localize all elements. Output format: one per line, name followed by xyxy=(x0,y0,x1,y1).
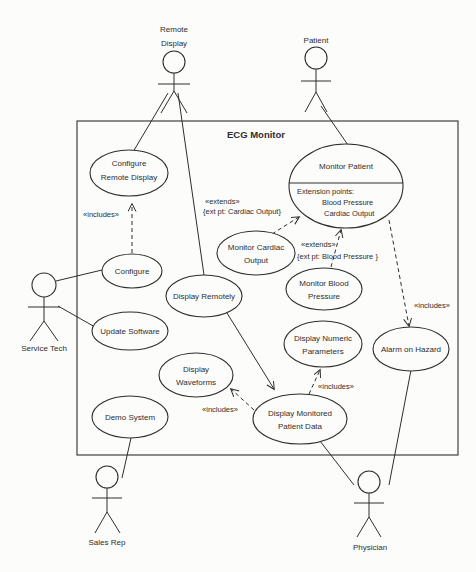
use-case-ellipse xyxy=(253,394,347,444)
extension-points-header: Extension points: xyxy=(297,187,354,196)
actor-leg-right xyxy=(44,321,58,341)
use-case-label: Output xyxy=(244,256,269,265)
use-case-diagram-page: ECG Monitor «includes» «extends» {ext pt… xyxy=(0,0,476,572)
association-displayremotely-displaymonitored xyxy=(227,313,274,389)
stereotype-extends-bp: «extends» xyxy=(301,240,336,249)
use-case-label: Display xyxy=(183,365,209,374)
use-case-display-numeric-parameters: Display Numeric Parameters xyxy=(284,321,362,367)
use-case-label: Display Numeric xyxy=(294,334,352,343)
actor-label: Display xyxy=(161,39,187,48)
use-case-monitor-cardiac-output: Monitor Cardiac Output xyxy=(217,231,295,275)
use-case-label: Display Remotely xyxy=(173,292,235,301)
actor-leg-left xyxy=(30,321,44,341)
system-title: ECG Monitor xyxy=(227,129,285,140)
actor-leg-left xyxy=(305,92,316,112)
use-case-label: Monitor Patient xyxy=(319,162,374,171)
actor-label: Service Tech xyxy=(21,344,67,353)
association-remotedisplay-configureremotedisplay xyxy=(133,93,168,152)
extension-point-item: Cardiac Output xyxy=(324,209,375,218)
actor-patient: Patient xyxy=(301,36,331,112)
use-case-label: Patient Data xyxy=(278,422,323,431)
actor-head xyxy=(32,273,56,297)
actor-leg-left xyxy=(357,517,369,537)
use-case-label: Monitor Cardiac xyxy=(228,243,284,252)
stereotype-extends-bp-point: {ext pt: Blood Pressure } xyxy=(297,252,378,261)
actor-label: Physician xyxy=(353,543,387,552)
use-case-ellipse xyxy=(217,231,295,275)
extension-point-item: Blood Pressure xyxy=(322,198,373,207)
use-case-display-waveforms: Display Waveforms xyxy=(159,353,233,397)
stereotype-extends-cardiac-point: {ext pt: Cardiac Output} xyxy=(203,207,281,216)
use-case-update-software: Update Software xyxy=(92,312,168,350)
use-case-diagram: ECG Monitor «includes» «extends» {ext pt… xyxy=(0,0,476,572)
use-case-label: Monitor Blood xyxy=(299,279,348,288)
stereotype-includes-configure: «includes» xyxy=(83,210,119,219)
use-case-display-remotely: Display Remotely xyxy=(166,275,242,317)
stereotype-extends-cardiac: «extends» xyxy=(205,197,240,206)
use-case-display-monitored-patient-data: Display Monitored Patient Data xyxy=(253,394,347,444)
association-remotedisplay-displayremotely xyxy=(178,93,204,275)
actor-leg-right xyxy=(316,92,327,112)
association-servicetech-configure xyxy=(56,270,102,281)
actor-remote-display: Remote Display xyxy=(158,25,190,113)
include-arrow-monitorpatient-alarmonhazard xyxy=(389,220,409,326)
actor-leg-right xyxy=(107,512,120,533)
extend-arrow-cardiac-monitorpatient xyxy=(272,217,299,234)
actor-head xyxy=(96,466,118,488)
actor-leg-right xyxy=(369,517,381,537)
use-case-label: Demo System xyxy=(105,413,156,422)
use-case-alarm-on-hazard: Alarm on Hazard xyxy=(373,327,449,371)
use-case-label: Configure xyxy=(115,267,150,276)
use-case-configure: Configure xyxy=(102,254,162,288)
actor-sales-rep: Sales Rep xyxy=(89,466,126,547)
actor-label: Remote xyxy=(160,25,189,34)
actor-leg-left xyxy=(95,512,107,533)
use-case-demo-system: Demo System xyxy=(92,396,168,438)
use-case-configure-remote-display: Configure Remote Display xyxy=(90,150,168,196)
use-case-label: Update Software xyxy=(100,327,160,336)
stereotype-includes-alarm: «includes» xyxy=(414,301,450,310)
actor-head xyxy=(305,47,327,69)
use-case-label: Display Monitored xyxy=(268,409,332,418)
stereotype-includes-numeric: «includes» xyxy=(318,382,354,391)
actor-head xyxy=(163,51,185,73)
association-physician-alarmonhazard xyxy=(389,370,411,485)
use-case-label: Configure xyxy=(112,159,147,168)
association-patient-monitorpatient xyxy=(321,106,348,145)
actor-physician: Physician xyxy=(353,471,387,552)
use-case-ellipse xyxy=(284,321,362,367)
actor-head xyxy=(358,471,380,493)
use-case-ellipse xyxy=(286,268,362,310)
use-case-label: Alarm on Hazard xyxy=(381,345,441,354)
stereotype-includes-waveforms: «includes» xyxy=(202,405,238,414)
use-case-ellipse xyxy=(159,353,233,397)
association-salesrep-demosystem xyxy=(122,438,131,478)
actor-label: Patient xyxy=(304,36,330,45)
use-case-monitor-patient: Monitor Patient Extension points: Blood … xyxy=(289,144,403,228)
association-physician-displaymonitored xyxy=(320,441,354,485)
use-case-label: Parameters xyxy=(302,347,343,356)
actor-service-tech: Service Tech xyxy=(21,273,67,353)
use-case-label: Remote Display xyxy=(101,173,157,182)
actor-label: Sales Rep xyxy=(89,538,126,547)
use-case-label: Waveforms xyxy=(176,378,216,387)
use-case-monitor-blood-pressure: Monitor Blood Pressure xyxy=(286,268,362,310)
use-case-label: Pressure xyxy=(308,292,341,301)
